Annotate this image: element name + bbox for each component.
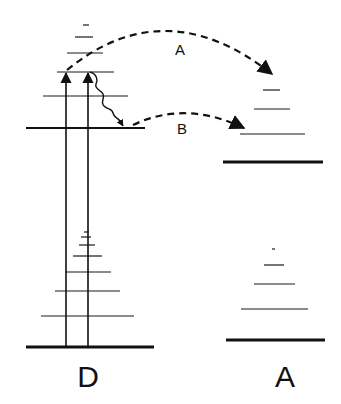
donor-label: D (77, 360, 99, 393)
energy-transfer-diagram: A B D A (0, 0, 341, 404)
excitation-arrows (66, 73, 88, 347)
relaxation-wavy-arrow-icon (90, 72, 123, 126)
acceptor-label: A (275, 360, 295, 393)
acceptor-energy-levels (223, 90, 325, 340)
donor-energy-levels (26, 25, 154, 347)
path-b-label: B (177, 120, 187, 137)
path-a-label: A (175, 41, 185, 58)
transfer-path-b-arrow (133, 113, 244, 128)
